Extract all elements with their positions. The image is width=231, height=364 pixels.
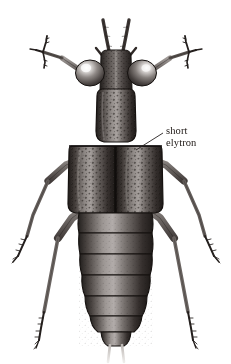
beetle-figure: short elytron bbox=[0, 0, 231, 364]
callout-label-line-2: elytron bbox=[166, 137, 196, 149]
middle-tarsus-right bbox=[205, 236, 220, 263]
callout-label: short elytron bbox=[166, 125, 196, 149]
callout-label-line-1: short bbox=[166, 125, 196, 137]
middle-tarsus-left bbox=[12, 236, 27, 263]
hind-tarsus-left bbox=[34, 312, 44, 349]
short-elytra bbox=[66, 143, 166, 217]
hind-tarsus-right bbox=[188, 312, 198, 349]
cerci bbox=[108, 345, 124, 362]
beetle-illustration bbox=[0, 0, 231, 364]
abdomen bbox=[78, 213, 153, 347]
pronotum bbox=[94, 86, 140, 146]
compound-eye-left bbox=[76, 60, 105, 86]
compound-eye-right bbox=[128, 60, 157, 86]
